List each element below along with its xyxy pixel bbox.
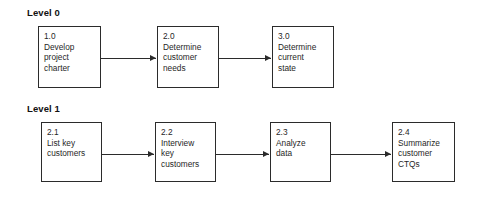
arrow-head-icon xyxy=(265,55,271,61)
level-1-label: Level 1 xyxy=(27,103,60,114)
process-box-2-1-text: List key customers xyxy=(47,138,101,159)
process-box-2-4-id: 2.4 xyxy=(398,127,454,138)
arrow-shaft xyxy=(102,154,154,155)
process-box-2-2-id: 2.2 xyxy=(161,127,215,138)
process-box-3-0[interactable]: 3.0 Determine current state xyxy=(272,26,334,88)
process-box-1-0-text: Develop project charter xyxy=(44,42,100,74)
process-box-2-2-text: Interview key customers xyxy=(161,138,215,170)
process-box-2-3-id: 2.3 xyxy=(276,127,330,138)
level-0-label: Level 0 xyxy=(27,7,60,18)
process-box-1-0[interactable]: 1.0 Develop project charter xyxy=(38,26,101,88)
arrow-head-icon xyxy=(385,151,391,157)
process-box-1-0-id: 1.0 xyxy=(44,31,100,42)
process-box-3-0-text: Determine current state xyxy=(278,42,333,74)
arrow-2-0-to-3-0 xyxy=(219,55,271,62)
arrow-shaft xyxy=(216,154,269,155)
process-box-2-4-text: Summarize customer CTQs xyxy=(398,138,454,170)
process-flow-diagram: Level 0 1.0 Develop project charter 2.0 … xyxy=(0,0,481,199)
process-box-2-1[interactable]: 2.1 List key customers xyxy=(41,122,102,182)
arrow-head-icon xyxy=(148,151,154,157)
process-box-2-3-text: Analyze data xyxy=(276,138,330,159)
process-box-3-0-id: 3.0 xyxy=(278,31,333,42)
arrow-2-1-to-2-2 xyxy=(102,151,154,158)
arrow-2-3-to-2-4 xyxy=(331,151,391,158)
process-box-2-2[interactable]: 2.2 Interview key customers xyxy=(155,122,216,182)
arrow-1-0-to-2-0 xyxy=(101,55,156,62)
process-box-2-1-id: 2.1 xyxy=(47,127,101,138)
arrow-head-icon xyxy=(150,55,156,61)
arrow-shaft xyxy=(101,58,156,59)
process-box-2-0[interactable]: 2.0 Determine customer needs xyxy=(157,26,219,88)
process-box-2-0-id: 2.0 xyxy=(163,31,218,42)
arrow-2-2-to-2-3 xyxy=(216,151,269,158)
process-box-2-3[interactable]: 2.3 Analyze data xyxy=(270,122,331,182)
process-box-2-4[interactable]: 2.4 Summarize customer CTQs xyxy=(392,122,455,182)
arrow-shaft xyxy=(219,58,271,59)
process-box-2-0-text: Determine customer needs xyxy=(163,42,218,74)
arrow-head-icon xyxy=(263,151,269,157)
arrow-shaft xyxy=(331,154,391,155)
